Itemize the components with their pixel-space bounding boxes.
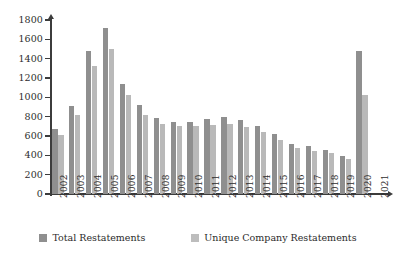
y-axis-label: 400 (0, 149, 43, 160)
x-axis-label-2014: 2014 (262, 174, 272, 198)
legend-item-unique[interactable]: Unique Company Restatements (191, 232, 356, 243)
x-axis-label-2015: 2015 (279, 174, 289, 198)
y-axis-tick (45, 116, 50, 117)
legend-swatch-icon (39, 234, 47, 242)
bar-group (187, 20, 204, 194)
bar-group (120, 20, 137, 194)
x-axis-label-2004: 2004 (93, 174, 103, 198)
x-axis-label-2011: 2011 (211, 174, 221, 198)
x-axis-label-2016: 2016 (296, 174, 306, 198)
plot-area (51, 20, 389, 194)
bar-total-2009 (171, 122, 176, 194)
bar-total-2014 (255, 126, 260, 194)
x-axis-label-2018: 2018 (330, 174, 340, 198)
bar-total-2017 (306, 146, 311, 194)
y-axis-label: 1200 (0, 72, 43, 83)
bar-total-2013 (238, 120, 243, 194)
bar-group (306, 20, 323, 194)
legend-label: Total Restatements (52, 232, 145, 243)
bar-group (154, 20, 171, 194)
bar-total-2011 (204, 119, 209, 194)
bar-group (373, 20, 390, 194)
bar-total-2019 (340, 156, 345, 194)
bar-total-2007 (137, 105, 142, 194)
y-axis-tick (45, 58, 50, 59)
bar-total-2004 (86, 51, 91, 194)
bar-group (255, 20, 272, 194)
bar-group (340, 20, 357, 194)
bar-group (171, 20, 188, 194)
x-axis-label-2003: 2003 (76, 174, 86, 198)
x-axis-label-2005: 2005 (110, 174, 120, 198)
bar-group (52, 20, 69, 194)
bar-chart: 180016001400120010008006004002000 200220… (0, 0, 396, 260)
bar-total-2016 (289, 144, 294, 194)
y-axis-tick (45, 39, 50, 40)
bar-total-2003 (69, 106, 74, 194)
bar-group (238, 20, 255, 194)
legend-swatch-icon (191, 234, 199, 242)
y-axis-tick (45, 77, 50, 78)
bar-total-2010 (187, 122, 192, 195)
x-axis-label-2006: 2006 (127, 174, 137, 198)
y-axis-label: 1000 (0, 91, 43, 102)
bar-group (289, 20, 306, 194)
bar-total-2005 (103, 28, 108, 194)
x-axis-label-2007: 2007 (144, 174, 154, 198)
x-axis-label-2010: 2010 (194, 174, 204, 198)
y-axis-label: 200 (0, 169, 43, 180)
bar-total-2006 (120, 84, 125, 194)
y-axis-label: 800 (0, 111, 43, 122)
bar-group (103, 20, 120, 194)
x-axis-label-2019: 2019 (346, 174, 356, 198)
bar-total-2012 (221, 117, 226, 194)
y-axis-tick (45, 155, 50, 156)
x-axis-label-2017: 2017 (313, 174, 323, 198)
bar-total-2008 (154, 118, 159, 194)
x-axis-label-2009: 2009 (177, 174, 187, 198)
bar-total-2015 (272, 134, 277, 194)
bar-group (137, 20, 154, 194)
bar-group (323, 20, 340, 194)
legend-label: Unique Company Restatements (204, 232, 356, 243)
bar-group (272, 20, 289, 194)
bar-total-2018 (323, 150, 328, 194)
bar-group (221, 20, 238, 194)
x-axis-label-2002: 2002 (59, 174, 69, 198)
y-axis-label: 1400 (0, 53, 43, 64)
y-axis-label: 1800 (0, 14, 43, 25)
x-axis-label-2008: 2008 (161, 174, 171, 198)
y-axis-tick (45, 19, 50, 20)
y-axis-label: 1600 (0, 33, 43, 44)
y-axis-label: 600 (0, 130, 43, 141)
y-axis-tick (45, 135, 50, 136)
y-axis-tick (45, 97, 50, 98)
bar-unique-2005 (109, 49, 114, 194)
y-axis-tick (45, 174, 50, 175)
x-axis-label-2020: 2020 (363, 174, 373, 198)
chart-legend: Total RestatementsUnique Company Restate… (0, 232, 396, 243)
bar-total-2002 (52, 129, 57, 194)
y-axis-tick (45, 193, 50, 194)
bar-total-2020 (356, 51, 361, 194)
x-axis-label-2013: 2013 (245, 174, 255, 198)
bar-group (204, 20, 221, 194)
x-axis-label-2021: 2021 (380, 174, 390, 198)
y-axis-label: 0 (0, 188, 43, 199)
bar-group (356, 20, 373, 194)
bar-group (86, 20, 103, 194)
y-axis-arrow-icon (48, 14, 54, 19)
legend-item-total[interactable]: Total Restatements (39, 232, 145, 243)
x-axis-label-2012: 2012 (228, 174, 238, 198)
bar-group (69, 20, 86, 194)
